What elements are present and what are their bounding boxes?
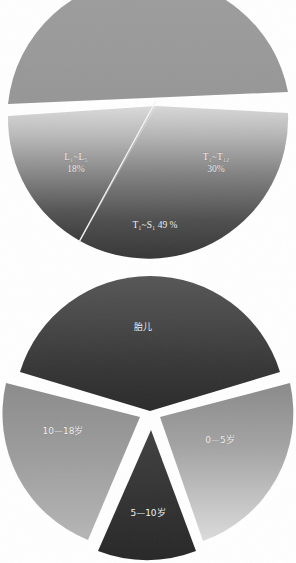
pie-label-t1-s1: T₁~S₁ 49 % <box>132 220 177 230</box>
pie-label-age-0-5: 0—5岁 <box>205 434 234 445</box>
pie-label-l1-l5: L₁~L₅ <box>64 152 87 162</box>
pie-slice-top-cap[interactable] <box>8 0 288 104</box>
pie-charts-figure: T₁~T₁₂ 30% L₁~L₅ 18% T₁~S₁ 49 % 胎儿 0—5岁 <box>0 0 296 563</box>
pie-chart-top: T₁~T₁₂ 30% L₁~L₅ 18% T₁~S₁ 49 % <box>0 0 296 262</box>
pie-label-age-10-18: 10—18岁 <box>43 425 84 436</box>
pie-chart-bottom: 胎儿 0—5岁 5—10岁 10—18岁 <box>0 262 296 563</box>
pie-label-age-5-10: 5—10岁 <box>130 507 165 518</box>
pie-label-fetus: 胎儿 <box>134 321 152 332</box>
pie-label-l1-l5-value: 18% <box>67 164 85 174</box>
pie-label-l1-l5-main: L₁~L₅ <box>64 152 87 162</box>
pie-label-t1-t12-main: T₁~T₁₂ <box>203 152 230 162</box>
pie-slice-fetus[interactable] <box>20 276 280 411</box>
pie-label-t1-t12: T₁~T₁₂ <box>203 152 230 162</box>
figure-root: T₁~T₁₂ 30% L₁~L₅ 18% T₁~S₁ 49 % 胎儿 0—5岁 <box>0 0 296 563</box>
pie-label-t1-t12-value: 30% <box>207 164 225 174</box>
